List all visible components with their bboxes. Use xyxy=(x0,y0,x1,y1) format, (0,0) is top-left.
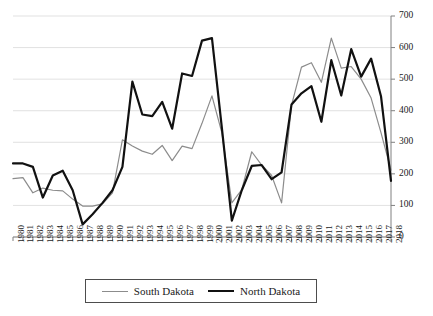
legend-item-south-dakota[interactable]: South Dakota xyxy=(102,285,194,297)
line-chart: 7006005004003002001000 19801981198219831… xyxy=(0,0,433,316)
legend-line-swatch-icon xyxy=(102,291,128,292)
y-axis-tick-label: 600 xyxy=(399,43,413,53)
x-axis-tick-label: 2008 xyxy=(295,225,304,243)
x-axis-tick-label: 1983 xyxy=(46,225,55,243)
chart-legend: South Dakota North Dakota xyxy=(85,279,317,303)
axis-lines xyxy=(13,16,391,237)
x-axis-tick-label: 2002 xyxy=(235,225,244,243)
x-axis-tick-label: 2014 xyxy=(355,225,364,243)
x-axis-tick-label: 2010 xyxy=(315,225,324,243)
x-axis-tick-label: 2004 xyxy=(255,225,264,243)
x-axis-tick-label: 2003 xyxy=(245,225,254,243)
x-axis-tick-label: 1984 xyxy=(56,225,65,243)
x-axis-tick-label: 1995 xyxy=(166,225,175,243)
x-axis-tick-label: 2011 xyxy=(325,225,334,243)
x-axis-tick-label: 2018 xyxy=(395,225,404,243)
x-axis-tick-label: 1996 xyxy=(176,225,185,243)
y-axis-tick-label: 100 xyxy=(399,200,413,210)
chart-canvas xyxy=(0,0,433,316)
x-axis-tick-label: 1993 xyxy=(146,225,155,243)
x-axis-tick-label: 2016 xyxy=(375,225,384,243)
x-axis-tick-label: 1989 xyxy=(106,225,115,243)
x-axis-tick-label: 2005 xyxy=(265,225,274,243)
y-axis-tick-label: 500 xyxy=(399,74,413,84)
gridlines xyxy=(13,16,391,237)
y-axis-ticks xyxy=(391,16,395,237)
x-axis-tick-label: 1998 xyxy=(196,225,205,243)
x-axis-tick-label: 2015 xyxy=(365,225,374,243)
series-line-south-dakota xyxy=(13,38,391,206)
data-series-group xyxy=(13,38,391,224)
x-axis-tick-label: 1990 xyxy=(116,225,125,243)
x-axis-tick-label: 1994 xyxy=(156,225,165,243)
legend-label-south-dakota: South Dakota xyxy=(134,285,194,297)
x-axis-tick-label: 2007 xyxy=(285,225,294,243)
x-axis-tick-label: 2017 xyxy=(385,225,394,243)
y-axis-tick-label: 200 xyxy=(399,169,413,179)
y-axis-tick-label: 300 xyxy=(399,137,413,147)
y-axis-tick-label: 700 xyxy=(399,11,413,21)
x-axis-tick-label: 1986 xyxy=(76,225,85,243)
x-axis-tick-label: 2006 xyxy=(275,225,284,243)
x-axis-tick-label: 1991 xyxy=(126,225,135,243)
x-axis-tick-label: 1987 xyxy=(86,225,95,243)
x-axis-tick-label: 1992 xyxy=(136,225,145,243)
x-axis-tick-label: 2012 xyxy=(335,225,344,243)
x-axis-tick-label: 1988 xyxy=(96,225,105,243)
x-axis-tick-label: 1997 xyxy=(186,225,195,243)
legend-label-north-dakota: North Dakota xyxy=(240,285,300,297)
legend-line-swatch-icon xyxy=(208,290,234,292)
x-axis-tick-label: 1985 xyxy=(66,225,75,243)
x-axis-tick-label: 2009 xyxy=(305,225,314,243)
legend-item-north-dakota[interactable]: North Dakota xyxy=(208,285,300,297)
x-axis-tick-label: 2013 xyxy=(345,225,354,243)
y-axis-tick-label: 400 xyxy=(399,106,413,116)
